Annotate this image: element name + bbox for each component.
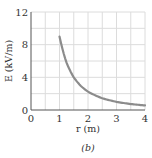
- grid: [31, 12, 145, 110]
- y-tick: 12: [15, 7, 28, 18]
- x-tick: 1: [56, 113, 62, 124]
- x-tick: 0: [28, 113, 34, 124]
- x-tick: 3: [113, 113, 119, 124]
- y-tick: 4: [22, 72, 28, 83]
- chart: 01234 04812 r (m) E (kV/m) (b): [0, 0, 152, 158]
- y-axis-label: E (kV/m): [3, 40, 14, 82]
- figure-caption: (b): [81, 142, 95, 153]
- y-tick: 0: [22, 105, 28, 116]
- y-tick-labels: 04812: [15, 7, 28, 116]
- x-tick: 4: [142, 113, 148, 124]
- y-tick: 8: [22, 39, 28, 50]
- x-axis-label: r (m): [76, 123, 100, 134]
